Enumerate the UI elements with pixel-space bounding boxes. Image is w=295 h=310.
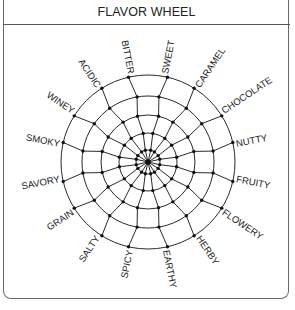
flavor-label: HERBY (194, 233, 222, 267)
node-dot (170, 143, 173, 146)
node-dot (166, 76, 169, 79)
node-dot (200, 199, 203, 202)
node-dot (144, 172, 147, 175)
node-dot (81, 171, 84, 174)
node-dot (211, 149, 214, 152)
node-dot (156, 167, 159, 170)
node-dot (175, 155, 178, 158)
node-dot (163, 137, 166, 140)
node-dot (171, 200, 174, 203)
node-dot (149, 172, 152, 175)
node-dot (135, 163, 138, 166)
node-dot (149, 149, 152, 152)
node-dot (186, 185, 189, 188)
node-dot (140, 150, 143, 153)
flavor-label: SAVORY (20, 173, 61, 191)
flavor-label: SPICY (119, 248, 135, 279)
node-dot (127, 245, 130, 248)
node-dot (200, 122, 203, 125)
node-dot (129, 184, 132, 187)
node-dot (100, 87, 103, 90)
node-dot (231, 141, 234, 144)
node-dot (192, 150, 195, 153)
node-dot (93, 199, 96, 202)
node-dot (157, 225, 160, 228)
node-dot (151, 189, 154, 192)
node-dot (123, 143, 126, 146)
node-dot (136, 206, 139, 209)
flavor-label: SALTY (76, 233, 102, 264)
flavor-label: GRAIN (45, 207, 76, 233)
node-dot (192, 87, 195, 90)
node-dot (62, 180, 65, 183)
node-dot (144, 149, 147, 152)
flavor-label: CARAMEL (193, 45, 228, 89)
node-dot (100, 234, 103, 237)
flavor-label: NUTTY (235, 132, 269, 149)
node-dot (192, 234, 195, 237)
node-dot (157, 206, 160, 209)
node-dot (121, 120, 124, 123)
node-dot (158, 158, 161, 161)
node-dot (100, 171, 103, 174)
node-dot (186, 135, 189, 138)
node-dot (140, 170, 143, 173)
flavor-label: SWEET (159, 39, 176, 74)
node-dot (127, 76, 130, 79)
node-dot (136, 167, 139, 170)
flavor-label: FRUITY (235, 173, 271, 191)
node-dot (185, 107, 188, 110)
node-dot (118, 155, 121, 158)
flavor-label: FLOWERY (220, 207, 266, 243)
flavor-label: BITTER (119, 39, 136, 74)
node-dot (141, 189, 144, 192)
node-dot (93, 122, 96, 125)
node-dot (156, 154, 159, 157)
node-dot (151, 132, 154, 135)
node-dot (163, 184, 166, 187)
node-dot (136, 154, 139, 157)
node-dot (153, 170, 156, 173)
flavor-label: EARTHY (161, 249, 179, 289)
node-dot (185, 214, 188, 217)
node-dot (220, 114, 223, 117)
node-dot (108, 107, 111, 110)
node-dot (81, 149, 84, 152)
node-dot (171, 120, 174, 123)
flavor-label: WINEY (45, 89, 78, 116)
node-dot (135, 225, 138, 228)
flavor-label: ACIDIC (76, 57, 103, 90)
node-dot (73, 114, 76, 117)
center-dot (146, 160, 151, 165)
node-dot (135, 158, 138, 161)
node-dot (118, 165, 121, 168)
node-dot (129, 137, 132, 140)
node-dot (123, 177, 126, 180)
node-dot (170, 177, 173, 180)
node-dot (175, 165, 178, 168)
node-dot (231, 180, 234, 183)
node-dot (192, 171, 195, 174)
node-dot (135, 95, 138, 98)
flavor-wheel: SWEETCARAMELCHOCOLATENUTTYFRUITYFLOWERYH… (0, 0, 295, 310)
node-dot (121, 200, 124, 203)
flavor-label: SMOKY (25, 131, 61, 149)
node-dot (141, 132, 144, 135)
node-dot (157, 95, 160, 98)
flavor-label: CHOCOLATE (219, 74, 274, 116)
node-dot (211, 171, 214, 174)
node-dot (73, 206, 76, 209)
node-dot (106, 185, 109, 188)
node-dot (106, 135, 109, 138)
node-dot (136, 114, 139, 117)
node-dot (157, 114, 160, 117)
node-dot (100, 150, 103, 153)
node-dot (166, 245, 169, 248)
node-dot (220, 206, 223, 209)
node-dot (108, 214, 111, 217)
node-dot (62, 141, 65, 144)
node-dot (158, 163, 161, 166)
node-dot (153, 150, 156, 153)
